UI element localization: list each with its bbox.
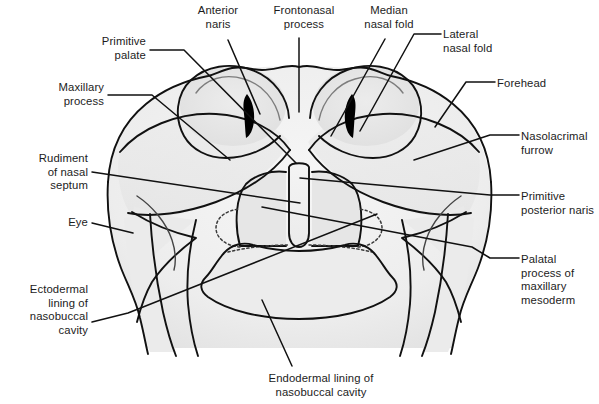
label-primitive-palate: Primitive palate bbox=[58, 35, 146, 62]
label-forehead: Forehead bbox=[497, 77, 577, 91]
label-palatal-process-of-maxillary-mesoderm: Palatal process of maxillary mesoderm bbox=[521, 253, 599, 307]
figure-canvas: Anterior naris Frontonasal process Media… bbox=[0, 0, 599, 404]
label-ectodermal-lining-of-nasobuccal-cavity: Ectodermal lining of nasobuccal cavity bbox=[2, 283, 88, 337]
label-maxillary-process: Maxillary process bbox=[20, 81, 104, 108]
label-endodermal-lining-of-nasobuccal-cavity: Endodermal lining of nasobuccal cavity bbox=[236, 372, 406, 399]
label-primitive-posterior-naris: Primitive posterior naris bbox=[521, 190, 599, 217]
label-lateral-nasal-fold: Lateral nasal fold bbox=[443, 28, 529, 55]
label-anterior-naris: Anterior naris bbox=[176, 4, 260, 31]
label-nasolacrimal-furrow: Nasolacrimal furrow bbox=[521, 130, 599, 157]
label-frontonasal-process: Frontonasal process bbox=[258, 4, 350, 31]
mandible-fill bbox=[202, 243, 397, 318]
nasal-septum-fill bbox=[289, 163, 309, 246]
label-rudiment-of-nasal-septum: Rudiment of nasal septum bbox=[6, 152, 88, 193]
label-median-nasal-fold: Median nasal fold bbox=[348, 4, 430, 31]
label-eye: Eye bbox=[30, 216, 88, 230]
